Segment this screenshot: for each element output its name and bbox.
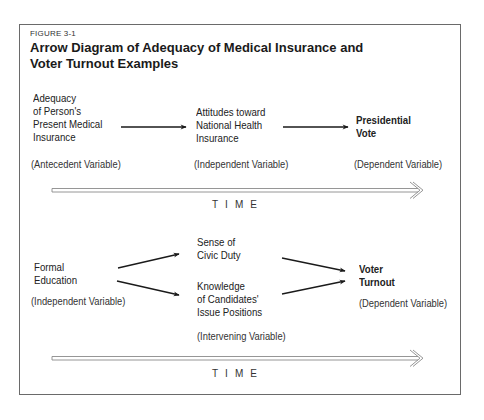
arrow-knowledge-to-turnout — [282, 281, 345, 294]
arrows-layer — [0, 0, 484, 420]
arrow-civic-duty-to-turnout — [282, 258, 345, 271]
arrow-education-to-civic-duty — [118, 254, 179, 268]
time-arrow-top-icon — [52, 182, 423, 199]
arrow-education-to-knowledge — [117, 281, 179, 295]
time-arrow-bottom-icon — [52, 350, 423, 367]
